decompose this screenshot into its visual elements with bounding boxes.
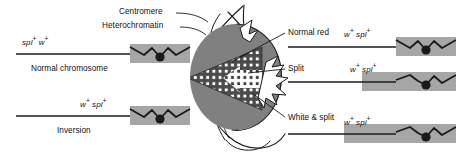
annotation-centromere: Centromere [119, 7, 163, 16]
centromere-dot-inversion [155, 114, 164, 123]
caption-inversion-chromosome: Inversion [57, 126, 91, 135]
variegation-figure: Centromere Heterochromatin spl+ w+ Norma… [0, 0, 456, 154]
annotation-heterochromatin: Heterochromatin [102, 21, 163, 30]
eye-diagram [188, 5, 288, 150]
callout-label-normal-red: Normal red [288, 28, 329, 37]
genotype-normal-red: w+ spl+ [344, 30, 370, 39]
genotype-split: w+ spl+ [350, 65, 376, 74]
chromosome-normal-red [288, 37, 456, 56]
chromosome-split [288, 72, 456, 91]
eye-bottom-curl [226, 140, 270, 150]
genotype-white-split: w+ spl+ [344, 118, 370, 127]
centromere-dot-normal [155, 52, 164, 61]
centromere-dot-white-split [421, 132, 430, 141]
chromosome-white-split [288, 124, 456, 143]
genotype-inversion-chromosome: w+ spl+ [80, 100, 106, 109]
leader-centromere [176, 13, 208, 22]
annotation-leaders [176, 13, 208, 35]
leader-heterochromatin [180, 27, 206, 35]
callout-label-white-split: White & split [288, 113, 334, 122]
centromere-dot-split [421, 80, 430, 89]
genotype-normal-chromosome: spl+ w+ [22, 38, 48, 47]
centromere-dot-normal-red [421, 45, 430, 54]
caption-normal-chromosome: Normal chromosome [31, 64, 108, 73]
callout-label-split: Split [288, 64, 304, 73]
